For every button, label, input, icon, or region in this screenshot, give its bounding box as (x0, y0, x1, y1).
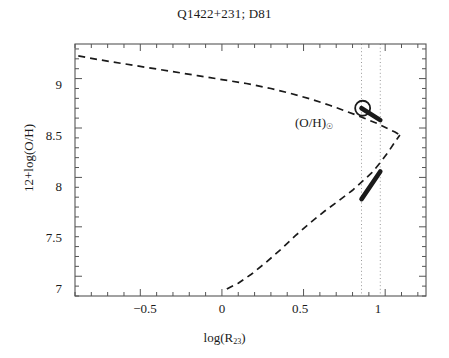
plot-canvas (0, 0, 449, 358)
allowed-solution-lower-branch-curve (362, 171, 381, 199)
upper-branch-curve (78, 56, 400, 135)
curve-group (78, 56, 400, 289)
vertical-bound-lines (362, 44, 381, 296)
lower-branch-curve (227, 135, 400, 289)
axes-frame (75, 44, 426, 296)
figure: Q1422+231; D81 12+log(O/H) log(R23) 9 8.… (0, 0, 449, 358)
plot-frame (75, 44, 426, 296)
